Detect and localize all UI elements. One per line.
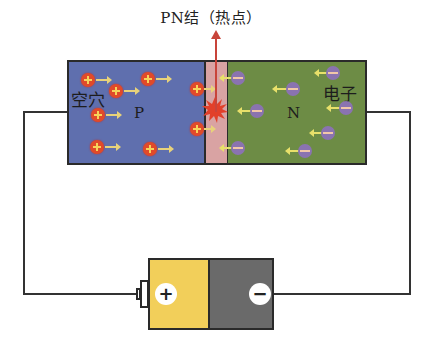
hole-icon [90, 140, 104, 154]
p-label: P [134, 104, 144, 122]
electron-icon [250, 104, 264, 118]
wire-right-top [367, 111, 411, 113]
electron-icon [321, 126, 335, 140]
arrow-right-icon [204, 88, 212, 90]
hotspot-arrow-icon [215, 38, 217, 112]
electron-icon [286, 82, 300, 96]
arrow-right-icon [158, 148, 170, 150]
arrow-right-icon [106, 114, 118, 116]
hole-label: 空穴 [71, 86, 105, 111]
hole-icon [81, 73, 95, 87]
hole-icon [190, 122, 204, 136]
electron-icon [231, 71, 245, 85]
electron-icon [339, 101, 353, 115]
arrow-right-icon [204, 128, 212, 130]
electron-icon [231, 141, 245, 155]
wire-right-vertical [409, 111, 411, 295]
pn-junction-hotspot-title: PN结（热点） [0, 6, 422, 27]
electron-icon [298, 144, 312, 158]
minus-icon: − [249, 283, 271, 305]
wire-left-vertical [23, 111, 25, 295]
electron-icon [326, 66, 340, 80]
hole-icon [143, 142, 157, 156]
wire-right-bottom [274, 293, 411, 295]
wire-left-top [23, 111, 67, 113]
plus-icon: + [155, 283, 177, 305]
arrow-right-icon [156, 78, 168, 80]
hole-icon [141, 72, 155, 86]
arrow-right-icon [124, 90, 136, 92]
electron-label: 电子 [323, 80, 357, 105]
hole-icon [109, 84, 123, 98]
arrow-right-icon [105, 146, 117, 148]
n-label: N [287, 104, 300, 122]
hole-icon [91, 108, 105, 122]
arrow-right-icon [96, 79, 108, 81]
hole-icon [190, 82, 204, 96]
wire-left-bottom [23, 293, 137, 295]
